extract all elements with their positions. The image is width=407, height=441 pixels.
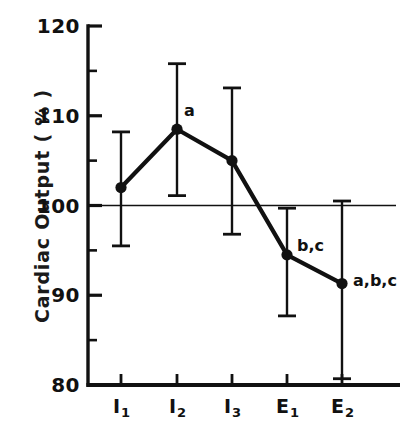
point-annotation: a — [184, 103, 195, 119]
data-point-marker[interactable] — [281, 249, 292, 260]
x-axis-tick-label-base: I — [113, 395, 120, 417]
data-point-marker[interactable] — [336, 278, 347, 289]
x-axis-tick-label: E1 — [259, 396, 315, 419]
x-axis-tick-label-base: E — [331, 395, 344, 417]
data-point-marker[interactable] — [226, 155, 237, 166]
x-axis-tick-label: E2 — [314, 396, 370, 419]
error-bar — [278, 208, 296, 316]
x-axis-tick-label: I1 — [93, 396, 149, 419]
x-axis-tick-label: I2 — [149, 396, 205, 419]
x-axis-tick-label-base: E — [276, 395, 289, 417]
plot-area — [0, 0, 407, 441]
error-bar-group — [112, 64, 351, 379]
x-axis-tick-label-subscript: 2 — [345, 405, 354, 420]
chart-figure: Cardiac Output ( % ) 1201101009080 I1I2I… — [0, 0, 407, 441]
x-axis-tick-label: I3 — [204, 396, 260, 419]
x-axis-tick-label-subscript: 3 — [232, 405, 241, 420]
data-point-marker[interactable] — [115, 182, 126, 193]
point-annotation: a,b,c — [353, 273, 397, 289]
x-axis-tick-label-subscript: 1 — [121, 405, 130, 420]
x-axis-tick-label-base: I — [224, 395, 231, 417]
point-annotation: b,c — [297, 238, 324, 254]
x-axis-tick-label-base: I — [169, 395, 176, 417]
x-axis-tick-label-subscript: 1 — [290, 405, 299, 420]
x-axis-tick-label-subscript: 2 — [177, 405, 186, 420]
error-bar — [333, 201, 351, 379]
data-point-marker[interactable] — [171, 124, 182, 135]
